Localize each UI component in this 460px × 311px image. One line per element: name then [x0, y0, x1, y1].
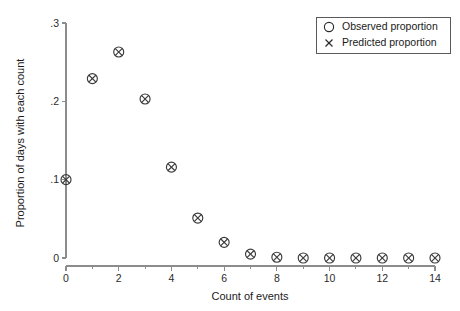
y-axis-tick-label: .1 [50, 173, 59, 185]
legend-entry-label: Observed proportion [342, 20, 438, 32]
y-axis-tick-label: .2 [50, 95, 59, 107]
data-point [246, 249, 256, 259]
chart-legend: Observed proportionPredicted proportion [316, 17, 450, 53]
data-point [219, 237, 229, 247]
data-point [87, 74, 97, 84]
x-axis-tick-label: 2 [116, 272, 122, 284]
chart-figure: 0.1.2.3 02468101214 Observed proportionP… [0, 0, 460, 311]
scatter-plot: 0.1.2.3 02468101214 Observed proportionP… [0, 0, 460, 311]
x-axis-tick-label: 8 [274, 272, 280, 284]
y-axis-title: Proportion of days with each count [14, 59, 26, 228]
x-axis-tick-label: 12 [376, 272, 388, 284]
x-axis-tick-label: 6 [221, 272, 227, 284]
data-point [166, 162, 176, 172]
x-axis-tick-label: 0 [63, 272, 69, 284]
data-point [298, 253, 308, 263]
x-axis: 02468101214 [63, 266, 441, 284]
data-points [61, 47, 440, 263]
x-axis-tick-label: 4 [169, 272, 175, 284]
data-point [377, 253, 387, 263]
x-axis-tick-label: 14 [429, 272, 441, 284]
data-point [404, 253, 414, 263]
y-axis-tick-label: 0 [53, 252, 59, 264]
data-point [193, 213, 203, 223]
data-point [114, 47, 124, 57]
data-point [272, 252, 282, 262]
y-axis: 0.1.2.3 [50, 17, 66, 264]
data-point [351, 253, 361, 263]
data-point [325, 253, 335, 263]
data-point [430, 253, 440, 263]
data-point [140, 94, 150, 104]
y-axis-tick-label: .3 [50, 17, 59, 29]
legend-entry-label: Predicted proportion [342, 36, 437, 48]
x-axis-tick-label: 10 [324, 272, 336, 284]
x-axis-title: Count of events [211, 290, 289, 302]
